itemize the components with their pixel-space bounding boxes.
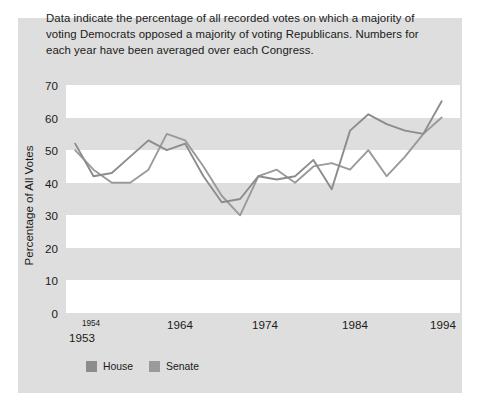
chart-legend: House Senate	[86, 361, 199, 372]
x-tick-1964: 1964	[150, 318, 210, 331]
chart-figure: Data indicate the percentage of all reco…	[0, 0, 480, 410]
legend-label-house: House	[103, 361, 133, 372]
legend-label-senate: Senate	[166, 361, 199, 372]
x-tick-1994: 1994	[413, 318, 473, 331]
x-tick-1954: 1954	[61, 319, 121, 328]
x-axis: 1954 1964 1974 1984 1994 1953	[0, 0, 480, 410]
x-tick-1984: 1984	[325, 318, 385, 331]
legend-swatch-senate	[149, 361, 160, 372]
x-label-1953: 1953	[52, 331, 112, 344]
x-tick-1974: 1974	[235, 318, 295, 331]
legend-swatch-house	[86, 361, 97, 372]
legend-item-senate[interactable]: Senate	[149, 361, 199, 372]
legend-item-house[interactable]: House	[86, 361, 133, 372]
